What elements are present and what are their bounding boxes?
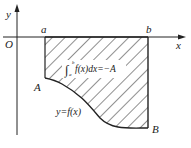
y-axis-label: y — [5, 8, 11, 20]
y-axis-arrow-icon — [15, 4, 20, 12]
integral-body: f(x)dx=−A — [75, 64, 116, 75]
point-B-label: B — [152, 123, 159, 135]
point-b-label: b — [146, 23, 152, 35]
integral-area-diagram: y O x a b A B y=f(x) ∫ b a f(x)dx=−A — [0, 0, 191, 148]
diagram-svg: y O x a b A B y=f(x) ∫ b a f(x)dx=−A — [0, 0, 191, 148]
origin-label: O — [5, 38, 13, 50]
shaded-region — [40, 35, 152, 133]
x-axis-label: x — [175, 39, 181, 51]
curve-label: y=f(x) — [55, 106, 82, 118]
point-A-label: A — [33, 81, 41, 93]
point-a-label: a — [41, 23, 47, 35]
